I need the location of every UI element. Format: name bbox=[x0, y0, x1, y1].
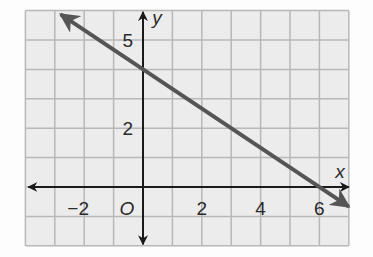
y-axis-label: y bbox=[150, 7, 163, 28]
y-tick-label: 5 bbox=[122, 30, 133, 51]
x-tick-label: 6 bbox=[314, 198, 325, 219]
y-tick-label: 2 bbox=[122, 118, 133, 139]
x-tick-label: −2 bbox=[67, 198, 89, 219]
x-axis-label: x bbox=[334, 161, 346, 182]
graph-svg: −224625Oxy bbox=[0, 0, 373, 257]
x-tick-label: 4 bbox=[255, 198, 266, 219]
x-tick-label: 2 bbox=[197, 198, 208, 219]
coordinate-plane-chart: −224625Oxy bbox=[0, 0, 373, 257]
origin-label: O bbox=[120, 198, 135, 219]
